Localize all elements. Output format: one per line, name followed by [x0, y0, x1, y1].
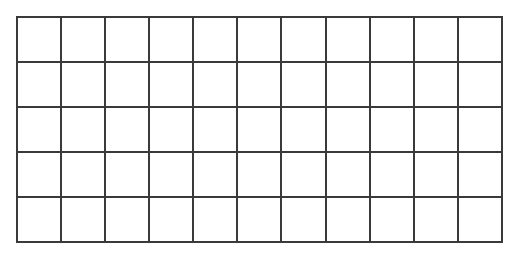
grid-cell [370, 62, 414, 107]
grid-cell [326, 62, 370, 107]
grid-cell [149, 107, 193, 152]
grid-cell [149, 17, 193, 62]
grid-cell [281, 152, 325, 197]
grid-cell [370, 107, 414, 152]
grid-cell [193, 197, 237, 242]
grid-row [17, 197, 502, 242]
grid-cell [237, 152, 281, 197]
grid-cell [193, 152, 237, 197]
grid-cell [105, 152, 149, 197]
grid-cell [458, 62, 502, 107]
grid-cell [193, 17, 237, 62]
grid-cell [237, 197, 281, 242]
grid-cell [458, 107, 502, 152]
grid-cell [414, 197, 458, 242]
grid-cell [193, 107, 237, 152]
grid-cell [458, 152, 502, 197]
grid-cell [193, 62, 237, 107]
grid-cell [414, 62, 458, 107]
grid-cell [17, 17, 61, 62]
grid-cell [237, 17, 281, 62]
grid-cell [17, 107, 61, 152]
grid-cell [326, 152, 370, 197]
grid-cell [149, 197, 193, 242]
grid-cell [237, 107, 281, 152]
grid-row [17, 152, 502, 197]
grid-cell [61, 107, 105, 152]
grid-cell [370, 197, 414, 242]
grid-cell [105, 17, 149, 62]
grid-cell [414, 17, 458, 62]
grid-row [17, 17, 502, 62]
grid-row [17, 62, 502, 107]
grid-cell [281, 62, 325, 107]
grid-cell [458, 17, 502, 62]
grid-cell [105, 197, 149, 242]
grid-cell [326, 197, 370, 242]
grid-cell [237, 62, 281, 107]
grid-cell [414, 152, 458, 197]
grid-cell [370, 152, 414, 197]
grid-cell [17, 152, 61, 197]
grid-cell [326, 107, 370, 152]
grid-cell [281, 107, 325, 152]
grid-cell [61, 62, 105, 107]
grid-cell [414, 107, 458, 152]
grid-cell [61, 197, 105, 242]
grid-cell [105, 107, 149, 152]
grid-cell [61, 152, 105, 197]
grid-cell [17, 62, 61, 107]
grid-cell [149, 62, 193, 107]
grid-cell [370, 17, 414, 62]
grid-cell [17, 197, 61, 242]
grid-cell [149, 152, 193, 197]
grid-cell [281, 17, 325, 62]
grid-cell [281, 197, 325, 242]
grid-cell [105, 62, 149, 107]
grid-cell [458, 197, 502, 242]
empty-grid [16, 16, 503, 243]
grid-row [17, 107, 502, 152]
grid-cell [61, 17, 105, 62]
grid-cell [326, 17, 370, 62]
